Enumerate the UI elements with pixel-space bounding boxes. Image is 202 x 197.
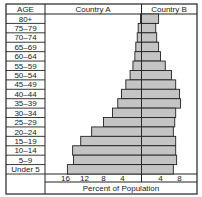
bar-country-b — [142, 89, 180, 98]
country-b-header: Country B — [151, 5, 187, 14]
bar-country-b — [142, 33, 157, 42]
bar-country-b — [142, 136, 176, 145]
x-axis-label: Percent of Population — [83, 184, 160, 193]
tick-label-right: 4 — [158, 174, 163, 183]
bar-country-a — [133, 61, 142, 70]
country-a-header: Country A — [75, 5, 111, 14]
age-header: AGE — [17, 5, 34, 14]
bar-country-b — [142, 146, 176, 155]
age-label: 55–59 — [14, 62, 37, 71]
age-label: 35–39 — [14, 99, 37, 108]
age-label: 75–79 — [14, 24, 37, 33]
age-label: 15–19 — [14, 137, 37, 146]
age-label: 5–9 — [19, 156, 33, 165]
tick-label-left: 8 — [101, 174, 106, 183]
bar-country-b — [142, 23, 156, 32]
age-label: 40–44 — [14, 90, 37, 99]
population-pyramid-chart: 80+75–7970–7465–6960–6455–5950–5445–4940… — [0, 0, 202, 197]
age-label: 45–49 — [14, 80, 37, 89]
bar-country-b — [142, 70, 172, 79]
bar-country-a — [92, 127, 142, 136]
bar-country-b — [142, 155, 177, 164]
bar-country-a — [137, 33, 141, 42]
bar-country-a — [136, 42, 142, 51]
bar-country-b — [142, 165, 174, 174]
bar-country-a — [67, 165, 141, 174]
bar-country-b — [142, 99, 181, 108]
bar-country-b — [142, 61, 166, 70]
age-label: Under 5 — [11, 165, 40, 174]
bar-country-a — [104, 118, 142, 127]
bars — [67, 14, 180, 174]
bar-country-a — [74, 155, 142, 164]
age-label: 60–64 — [14, 52, 37, 61]
bar-country-b — [142, 14, 159, 23]
bar-country-a — [126, 80, 142, 89]
tick-label-left: 16 — [61, 174, 70, 183]
bar-country-a — [135, 52, 142, 61]
bar-country-a — [118, 99, 142, 108]
bar-country-b — [142, 118, 175, 127]
bar-country-a — [138, 23, 141, 32]
bar-country-b — [142, 127, 174, 136]
age-label: 70–74 — [14, 33, 37, 42]
bar-country-a — [73, 146, 142, 155]
bar-country-a — [113, 108, 142, 117]
age-label: 20–24 — [14, 128, 37, 137]
bar-country-a — [81, 136, 142, 145]
bar-country-b — [142, 80, 176, 89]
tick-label-left: 12 — [80, 174, 89, 183]
tick-label-left: 4 — [120, 174, 125, 183]
bar-country-b — [142, 108, 176, 117]
age-label: 80+ — [19, 15, 33, 24]
bar-country-b — [142, 42, 159, 51]
bar-country-a — [122, 89, 142, 98]
age-label: 25–29 — [14, 118, 37, 127]
age-label: 10–14 — [14, 146, 37, 155]
tick-label-right: 8 — [177, 174, 182, 183]
age-label: 65–69 — [14, 43, 37, 52]
bar-country-a — [130, 70, 141, 79]
age-label: 50–54 — [14, 71, 37, 80]
bar-country-b — [142, 52, 161, 61]
age-label: 30–34 — [14, 109, 37, 118]
